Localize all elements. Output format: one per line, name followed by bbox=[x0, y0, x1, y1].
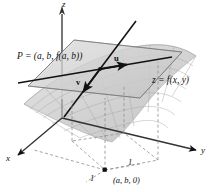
tangent-plane-figure: z x y P = (a, b, f(a, b)) z = f(x, y) u … bbox=[0, 0, 216, 192]
base-point-label: (a, b, 0) bbox=[113, 176, 140, 185]
unit-marker-x: 1 bbox=[90, 174, 94, 183]
z-axis-label: z bbox=[62, 0, 66, 9]
unit-marker-y: 1 bbox=[128, 158, 132, 167]
vector-v-label: v bbox=[76, 78, 80, 87]
base-point-marker bbox=[103, 168, 107, 172]
point-P-label: P = (a, b, f(a, b)) bbox=[17, 52, 82, 62]
y-axis-label: y bbox=[201, 146, 205, 155]
x-axis-label: x bbox=[6, 154, 10, 163]
x-axis bbox=[18, 118, 62, 155]
surface-equation-label: z = f(x, y) bbox=[152, 76, 189, 86]
vector-u-label: u bbox=[114, 54, 119, 63]
figure-canvas bbox=[0, 0, 216, 192]
point-P-marker bbox=[98, 67, 102, 71]
